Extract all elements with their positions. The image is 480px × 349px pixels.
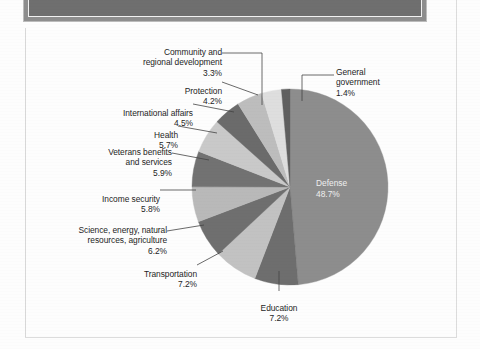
slice-label-international-affairs-name: International affairs <box>123 108 193 118</box>
leader-line-transportation <box>197 251 223 265</box>
page-frame-bottom-rule <box>25 337 457 338</box>
slice-label-science-pct: 6.2% <box>44 246 167 256</box>
slice-label-transportation-name: Transportation <box>144 269 197 279</box>
leader-line-science <box>167 225 204 231</box>
slice-label-defense: Defense 48.7% <box>316 168 386 199</box>
slice-label-veterans-name: Veterans benefits and services <box>108 147 172 167</box>
slice-label-general-government-name: General government <box>336 67 380 87</box>
slice-label-income-security-name: Income security <box>102 194 160 204</box>
slice-label-science-name: Science, energy, natural resources, agri… <box>79 225 168 245</box>
pie-chart: Community and regional development 3.3% … <box>26 29 456 337</box>
pie-chart-figure: Community and regional development 3.3% … <box>26 29 456 337</box>
scanned-page: Community and regional development 3.3% … <box>0 0 480 349</box>
slice-label-education-name: Education <box>261 303 298 313</box>
page-header-band-inner <box>28 0 422 17</box>
page-header-band <box>23 0 427 22</box>
slice-label-transportation-pct: 7.2% <box>112 279 197 289</box>
slice-label-defense-pct: 48.7% <box>316 189 340 199</box>
slice-label-transportation: Transportation 7.2% <box>112 259 197 300</box>
slice-label-income-security-pct: 5.8% <box>74 204 160 214</box>
slice-label-general-government: General government 1.4% <box>336 57 426 108</box>
slice-label-education-pct: 7.2% <box>242 313 316 323</box>
slice-label-veterans: Veterans benefits and services 5.9% <box>81 137 172 188</box>
slice-label-protection-name: Protection <box>185 86 222 96</box>
page-frame-right-rule <box>456 0 457 338</box>
slice-label-veterans-pct: 5.9% <box>81 168 172 178</box>
leader-line-protection <box>222 82 258 95</box>
slice-label-education: Education 7.2% <box>242 293 316 334</box>
slice-label-community-name: Community and regional development <box>143 47 222 67</box>
slice-label-defense-name: Defense <box>316 178 347 188</box>
slice-label-general-government-pct: 1.4% <box>336 88 426 98</box>
